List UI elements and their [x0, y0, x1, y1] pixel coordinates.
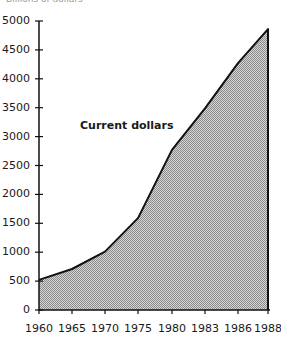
- y-tick-label: 5000: [0, 14, 30, 27]
- x-tick-label: 1960: [21, 322, 57, 335]
- y-tick-label: 2000: [0, 187, 30, 200]
- x-tick-label: 1965: [54, 322, 90, 335]
- y-tick-label: 0: [0, 303, 30, 316]
- y-tick-label: 4500: [0, 43, 30, 56]
- x-tick-label: 1970: [87, 322, 123, 335]
- x-tick-label: 1975: [120, 322, 156, 335]
- x-tick-label: 1988: [250, 322, 281, 335]
- y-tick-label: 3500: [0, 101, 30, 114]
- series-annotation: Current dollars: [80, 119, 174, 132]
- data-area: [39, 29, 268, 310]
- y-tick-label: 2500: [0, 159, 30, 172]
- x-tick-label: 1980: [154, 322, 190, 335]
- y-tick-label: 1000: [0, 245, 30, 258]
- chart-area: [0, 0, 281, 342]
- y-tick-label: 4000: [0, 72, 30, 85]
- y-tick-label: 3000: [0, 130, 30, 143]
- y-tick-label: 500: [0, 274, 30, 287]
- x-tick-label: 1983: [187, 322, 223, 335]
- y-tick-label: 1500: [0, 216, 30, 229]
